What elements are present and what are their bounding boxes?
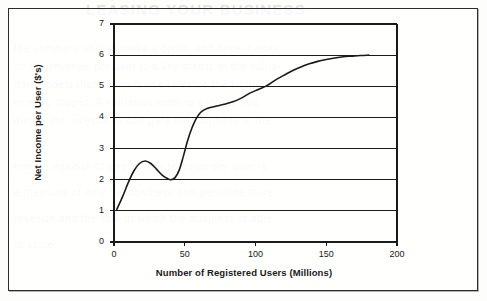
x-tick-label: 200 [382,249,412,259]
x-tick-label: 50 [170,249,200,259]
y-axis-title: Net Income per User ($'s) [32,33,43,213]
data-series-line [117,55,369,209]
y-tick-label: 4 [84,111,104,121]
chart-plot-area: 01234567 050100150200 Net Income per Use… [9,9,479,292]
y-tick-label: 7 [84,18,104,28]
x-tick-label: 100 [241,249,271,259]
y-tick-label: 1 [84,205,104,215]
x-tick-label: 150 [311,249,341,259]
x-tick-label: 0 [99,249,129,259]
figure-frame: 01234567 050100150200 Net Income per Use… [8,8,478,291]
x-axis-title: Number of Registered Users (Millions) [9,267,479,278]
y-tick-label: 2 [84,174,104,184]
y-tick-label: 5 [84,80,104,90]
y-tick-label: 3 [84,143,104,153]
y-tick-label: 0 [84,236,104,246]
grid-lines [114,24,397,211]
axis-ticks [110,24,397,246]
axis-lines [114,24,397,242]
y-tick-label: 6 [84,49,104,59]
